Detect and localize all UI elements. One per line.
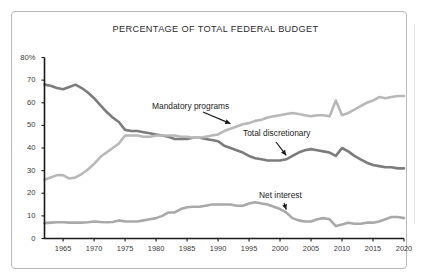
y-tick-label: 0: [10, 234, 36, 243]
series-line-net-interest: [45, 202, 405, 226]
y-tick-label: 40: [10, 143, 36, 152]
chart-figure: PERCENTAGE OF TOTAL FEDERAL BUDGET 80%70…: [0, 0, 431, 280]
y-tick-label: 10: [10, 211, 36, 220]
x-tick-label: 1995: [234, 244, 264, 253]
annotation-arrow-head: [282, 204, 287, 210]
y-tick-label: 70: [10, 75, 36, 84]
y-tick-label: 60: [10, 98, 36, 107]
y-tick-label: 30: [10, 166, 36, 175]
x-tick-label: 2005: [296, 244, 326, 253]
x-tick-label: 1965: [48, 244, 78, 253]
x-tick-label: 1980: [141, 244, 171, 253]
x-tick-label: 1970: [79, 244, 109, 253]
x-tick-label: 2020: [389, 244, 419, 253]
chart-plot-area: [0, 0, 431, 280]
annotation-label-mandatory-programs: Mandatory programs: [152, 101, 229, 111]
y-tick-label: 20: [10, 188, 36, 197]
annotation-label-net-interest: Net interest: [259, 190, 302, 200]
x-tick-label: 1975: [110, 244, 140, 253]
x-tick-label: 2000: [265, 244, 295, 253]
axis-lines: [45, 58, 405, 239]
annotation-label-total-discretionary: Total discretionary: [243, 128, 311, 138]
y-tick-label: 50: [10, 120, 36, 129]
series-line-total-discretionary: [45, 85, 405, 169]
axis-layer: [42, 58, 405, 242]
y-tick-label: 80%: [10, 53, 36, 62]
x-tick-label: 2010: [327, 244, 357, 253]
x-tick-label: 1990: [203, 244, 233, 253]
x-tick-label: 1985: [172, 244, 202, 253]
x-tick-label: 2015: [358, 244, 388, 253]
